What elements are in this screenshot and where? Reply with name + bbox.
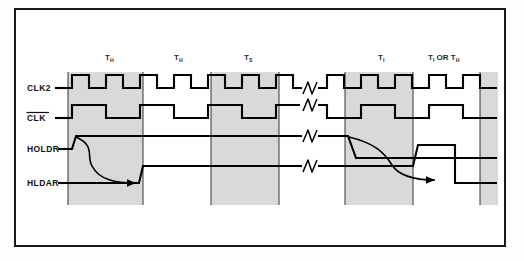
shaded-band	[480, 72, 498, 205]
timing-waveform-canvas: TH TH TS TI TI OR TH CLK2 CLK HOLDR HLDA…	[0, 0, 524, 261]
time-break-marks	[303, 82, 317, 172]
state-label-2: TH	[174, 53, 183, 63]
shaded-state-bands	[68, 72, 498, 205]
break-mark-hldar	[303, 160, 317, 172]
signal-label-holdr: HOLDR	[27, 144, 59, 154]
signal-label-clk2: CLK2	[27, 83, 51, 93]
arrowhead-2	[426, 176, 435, 184]
state-label-4: TI	[378, 53, 385, 63]
signal-label-hldar: HLDAR	[27, 178, 59, 188]
break-mark-clk2	[303, 82, 317, 94]
state-labels: TH TH TS TI TI OR TH	[105, 53, 460, 63]
shaded-band	[211, 72, 279, 205]
break-mark-clk	[303, 99, 317, 111]
signal-lead-stubs	[55, 88, 68, 183]
state-label-1: TH	[105, 53, 114, 63]
state-label-3: TS	[244, 53, 253, 63]
signal-name-column: CLK2 CLK HOLDR HLDAR	[27, 83, 60, 188]
timing-diagram-figure: TH TH TS TI TI OR TH CLK2 CLK HOLDR HLDA…	[0, 0, 524, 261]
break-mark-holdr	[303, 130, 317, 142]
signal-label-clk: CLK	[27, 113, 46, 123]
state-label-5: TI OR TH	[428, 53, 460, 63]
